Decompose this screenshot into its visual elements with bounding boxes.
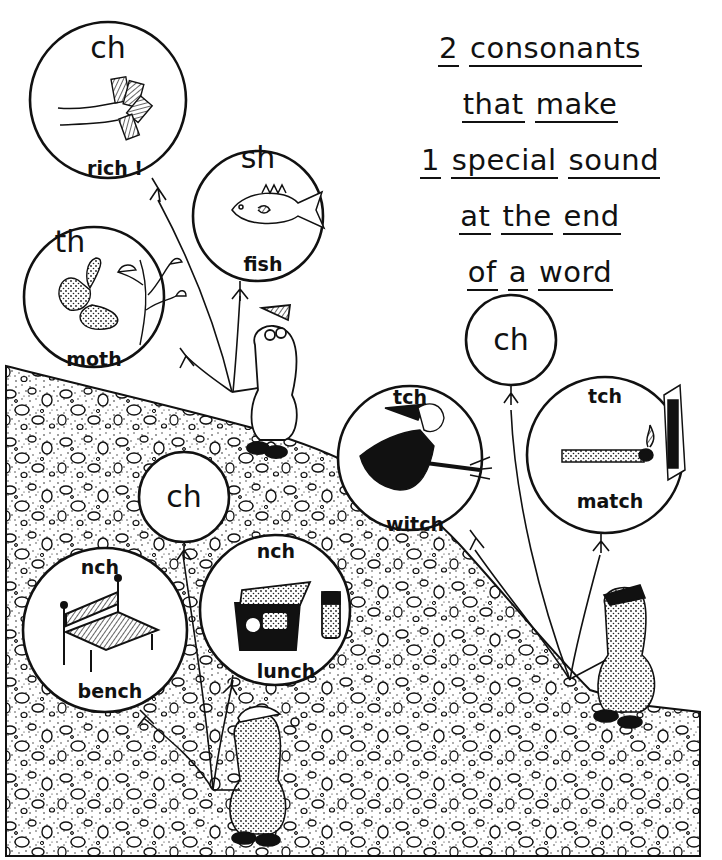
title-word: special [451,143,558,179]
title-line-2: thatmake [390,82,690,138]
digraph-witch: tch [380,386,440,408]
word-moth: moth [54,348,134,370]
digraph-moth: th [40,224,100,259]
digraph-lunch: nch [246,540,306,562]
digraph-ch-middle: ch [154,479,214,514]
title-word: end [563,199,621,235]
word-match: match [570,490,650,512]
word-fish: fish [238,253,288,275]
title-word: 1 [420,143,441,179]
title-word: the [501,199,552,235]
word-bench: bench [70,680,150,702]
title-word: 2 [438,31,459,67]
title-word: that [462,87,525,123]
worksheet-title: 2consonants thatmake 1specialsound atthe… [390,26,690,306]
digraph-rich: ch [78,30,138,65]
digraph-fish: sh [228,140,288,175]
title-word: word [538,255,613,291]
word-lunch: lunch [246,660,326,682]
title-word: at [459,199,491,235]
title-line-1: 2consonants [390,26,690,82]
word-rich: rich ! [80,157,150,179]
title-word: make [535,87,619,123]
word-witch: witch [380,513,450,535]
title-word: a [508,255,528,291]
title-line-4: attheend [390,194,690,250]
title-line-5: ofaword [390,250,690,306]
digraph-match: tch [575,385,635,407]
title-line-3: 1specialsound [390,138,690,194]
title-word: of [467,255,498,291]
digraph-bench: nch [70,556,130,578]
title-word: sound [568,143,661,179]
title-word: consonants [469,31,642,67]
digraph-ch-top-right: ch [481,322,541,357]
